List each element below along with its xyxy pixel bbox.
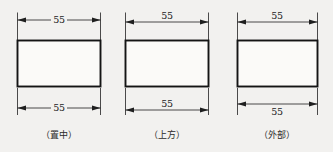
arrow-head-top-right-icon — [200, 19, 209, 24]
arrow-head-top-right-icon — [92, 17, 101, 22]
dimension-group-centered: 55 55 （置中） — [18, 13, 101, 141]
dimension-value-top: 55 — [271, 10, 283, 21]
arrow-head-bottom-left-icon — [238, 101, 247, 106]
arrow-head-top-left-icon — [126, 19, 135, 24]
dimension-group-outside: 55 55 （外部） — [238, 10, 318, 140]
rectangle-shape — [126, 41, 209, 87]
arrow-head-top-right-icon — [309, 19, 318, 24]
group-caption: （外部） — [259, 129, 295, 140]
arrow-head-top-left-icon — [238, 19, 247, 24]
arrow-head-bottom-right-icon — [200, 107, 209, 112]
rectangle-shape — [238, 41, 318, 87]
dimension-value-top: 55 — [161, 10, 173, 21]
dimension-value-top: 55 — [53, 14, 65, 25]
dimension-group-above: 55 55 （上方） — [126, 10, 209, 140]
arrow-head-bottom-left-icon — [18, 105, 27, 110]
rectangle-shape — [18, 41, 101, 87]
arrow-head-bottom-left-icon — [126, 107, 135, 112]
dimension-placement-figure: 55 55 （置中） 55 — [0, 0, 333, 152]
dimension-value-bottom: 55 — [271, 106, 283, 117]
arrow-head-top-left-icon — [18, 17, 27, 22]
group-caption: （上方） — [149, 129, 185, 140]
arrow-head-bottom-right-icon — [92, 105, 101, 110]
dimension-value-bottom: 55 — [53, 102, 65, 113]
arrow-head-bottom-right-icon — [309, 101, 318, 106]
dimension-value-bottom: 55 — [161, 98, 173, 109]
group-caption: （置中） — [41, 129, 77, 140]
